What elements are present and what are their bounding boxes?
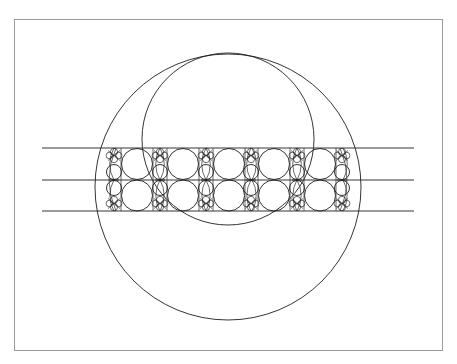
divider-petal — [156, 204, 163, 211]
divider-medium-circle — [244, 165, 259, 180]
divider-petal — [156, 156, 163, 163]
divider-petal — [293, 156, 300, 163]
divider-medium-circle — [153, 165, 168, 180]
divider-petal — [293, 196, 300, 203]
divider-medium-circle — [199, 165, 214, 180]
divider-petal — [202, 148, 209, 155]
divider-petal — [293, 204, 300, 211]
circle-band — [106, 148, 350, 211]
big-circle-upper — [259, 149, 290, 180]
divider-petal — [247, 156, 254, 163]
enclosing-circles — [95, 53, 361, 320]
divider-medium-circle — [290, 181, 305, 196]
big-circle-lower — [168, 180, 199, 211]
divider-petal — [156, 196, 163, 203]
big-circle-lower — [305, 180, 336, 211]
divider-petal — [247, 204, 254, 211]
large-circle — [95, 54, 361, 320]
divider-medium-circle — [153, 181, 168, 196]
geometric-circle-packing-diagram — [0, 0, 457, 364]
big-circle-upper — [122, 149, 153, 180]
divider-petal — [293, 148, 300, 155]
divider-petal — [156, 148, 163, 155]
big-circle-upper — [305, 149, 336, 180]
big-circle-upper — [214, 149, 245, 180]
big-circle-lower — [259, 180, 290, 211]
divider-petal — [202, 196, 209, 203]
big-circle-lower — [122, 180, 153, 211]
divider-petal — [247, 148, 254, 155]
divider-petal — [202, 156, 209, 163]
divider-medium-circle — [199, 181, 214, 196]
divider-petal — [338, 148, 345, 155]
divider-petal — [202, 204, 209, 211]
divider-medium-circle — [244, 181, 259, 196]
big-circle-lower — [214, 180, 245, 211]
big-circle-upper — [168, 149, 199, 180]
divider-petal — [110, 148, 117, 155]
divider-petal — [247, 196, 254, 203]
divider-medium-circle — [290, 165, 305, 180]
